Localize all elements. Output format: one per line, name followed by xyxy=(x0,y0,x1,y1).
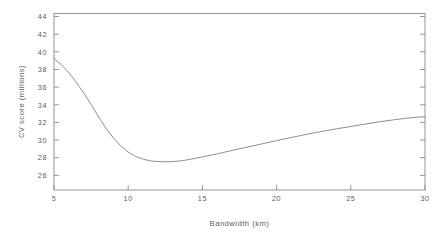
ytick-label-34: 34 xyxy=(38,101,47,110)
xtick-label-30: 30 xyxy=(420,194,429,203)
ytick-label-44: 44 xyxy=(38,12,47,21)
ytick-label-42: 42 xyxy=(38,30,47,39)
ytick-label-28: 28 xyxy=(38,153,47,162)
xtick-label-20: 20 xyxy=(272,194,281,203)
chart-figure: 5 10 15 20 25 30 26 28 30 32 34 36 38 40… xyxy=(0,0,447,238)
ytick-label-38: 38 xyxy=(38,65,47,74)
ytick-label-40: 40 xyxy=(38,48,47,57)
ytick-label-36: 36 xyxy=(38,83,47,92)
xtick-label-25: 25 xyxy=(346,194,355,203)
chart-background xyxy=(0,0,447,238)
xtick-label-10: 10 xyxy=(124,194,133,203)
y-axis-title: CV score (millions) xyxy=(17,65,26,138)
ytick-label-26: 26 xyxy=(38,171,47,180)
cv-score-line-chart: 5 10 15 20 25 30 26 28 30 32 34 36 38 40… xyxy=(0,0,447,238)
ytick-label-30: 30 xyxy=(38,136,47,145)
xtick-label-15: 15 xyxy=(198,194,207,203)
x-axis-title: Bandwidth (km) xyxy=(210,219,270,228)
ytick-label-32: 32 xyxy=(38,118,47,127)
xtick-label-5: 5 xyxy=(52,194,57,203)
